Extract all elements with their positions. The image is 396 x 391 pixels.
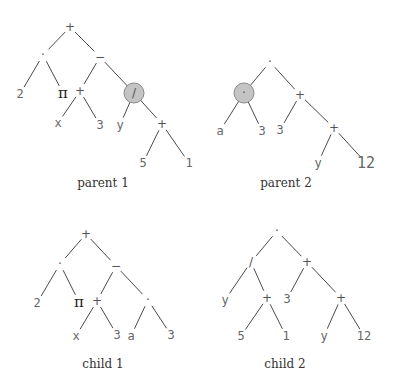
tree-edge: [152, 306, 167, 328]
tree-node: 3: [167, 328, 174, 342]
tree-edge: [282, 236, 302, 256]
tree-node: a: [216, 124, 223, 138]
node-label: 12: [357, 154, 375, 172]
tree-node: 5: [139, 156, 146, 170]
crossover-point-node: ·: [234, 83, 254, 103]
node-label: 3: [113, 328, 120, 342]
tree-nodes: +·−2π+·x3a3: [33, 227, 174, 343]
tree-edge: [41, 270, 56, 296]
node-label: +: [262, 291, 272, 305]
tree-edge: [101, 272, 113, 294]
node-label: 3: [283, 292, 290, 306]
tree-node: y: [221, 293, 228, 307]
tree-edge: [312, 267, 336, 292]
tree-node: y: [116, 118, 123, 132]
tree-nodes: ··+a33+y12: [216, 55, 375, 172]
tree-node: +: [157, 117, 167, 131]
node-label: 5: [139, 156, 146, 170]
tree-node: 3: [96, 118, 103, 132]
tree-node: 12: [357, 154, 375, 172]
tree-node: a: [127, 329, 134, 343]
tree-edge: [249, 67, 265, 87]
tree-edge: [121, 271, 143, 294]
tree-edge: [275, 67, 295, 89]
tree-edge: [254, 268, 264, 290]
tree-node: +: [75, 84, 85, 98]
tree-node: −: [111, 259, 121, 273]
tree-node: ·: [275, 224, 279, 238]
tree-edge: [101, 307, 113, 328]
tree-edge: [84, 97, 96, 118]
tree-parent1: +·−2π+/x3y+51parent 1: [16, 20, 192, 190]
tree-node: ·: [146, 293, 150, 307]
tree-node: y: [320, 329, 327, 343]
node-label: x: [54, 116, 61, 130]
tree-child1: +·−2π+·x3a3child 1: [33, 227, 174, 371]
tree-node: ·: [41, 48, 45, 62]
node-label: +: [336, 291, 346, 305]
tree-node: ·: [268, 55, 272, 69]
node-label: y: [320, 329, 327, 343]
tree-edge: [345, 304, 360, 329]
tree-edge: [305, 100, 328, 123]
tree-node: +: [81, 227, 91, 241]
node-label: ·: [268, 55, 272, 69]
tree-edge: [134, 306, 145, 328]
tree-edge: [270, 304, 282, 329]
tree-edge: [230, 268, 248, 294]
node-label: π: [74, 293, 84, 311]
node-label: a: [216, 124, 223, 138]
tree-caption: child 2: [264, 357, 305, 371]
tree-node: 1: [282, 329, 289, 343]
crossover-diagram: +·−2π+/x3y+51parent 1··+a33+y12parent 2+…: [0, 0, 396, 391]
node-label: +: [329, 121, 339, 135]
tree-node: y: [314, 156, 321, 170]
tree-caption: parent 2: [260, 176, 312, 190]
tree-node: +: [302, 255, 312, 269]
node-label: 1: [282, 329, 289, 343]
node-label: y: [221, 293, 228, 307]
tree-nodes: ·/+y+3+51y12: [221, 224, 371, 343]
tree-edge: [75, 32, 94, 51]
node-label: +: [157, 117, 167, 131]
tree-node: +: [336, 291, 346, 305]
tree-edge: [291, 268, 304, 292]
tree-node: 3: [258, 124, 265, 138]
tree-edge: [321, 134, 331, 155]
node-label: 12: [357, 329, 371, 343]
node-label: ·: [242, 86, 246, 100]
node-label: −: [111, 259, 121, 273]
tree-edge: [65, 239, 81, 258]
node-label: a: [127, 329, 134, 343]
node-label: 5: [237, 329, 244, 343]
node-label: +: [302, 255, 312, 269]
tree-node: ·: [58, 257, 62, 271]
node-label: x: [72, 329, 79, 343]
node-label: +: [295, 88, 305, 102]
node-label: 3: [276, 123, 283, 137]
tree-node: /: [249, 255, 254, 269]
crossover-point-node: /: [124, 83, 144, 103]
node-label: 2: [33, 296, 40, 310]
tree-edge: [284, 101, 297, 123]
tree-node: 5: [237, 329, 244, 343]
tree-node: +: [262, 291, 272, 305]
node-label: 2: [16, 87, 23, 101]
tree-child2: ·/+y+3+51y12child 2: [221, 224, 371, 371]
tree-node: 12: [357, 329, 371, 343]
tree-edge: [46, 61, 59, 86]
tree-node: 2: [33, 296, 40, 310]
node-label: +: [75, 84, 85, 98]
tree-node: +: [92, 294, 102, 308]
node-label: ·: [58, 257, 62, 271]
tree-edges: [230, 236, 360, 329]
tree-edges: [41, 239, 167, 329]
tree-caption: child 1: [82, 357, 123, 371]
tree-node: x: [54, 116, 61, 130]
tree-edge: [105, 62, 129, 87]
tree-edge: [327, 304, 338, 328]
tree-node: 3: [113, 328, 120, 342]
node-label: ·: [41, 48, 45, 62]
tree-edge: [24, 61, 39, 87]
tree-edge: [91, 239, 111, 260]
